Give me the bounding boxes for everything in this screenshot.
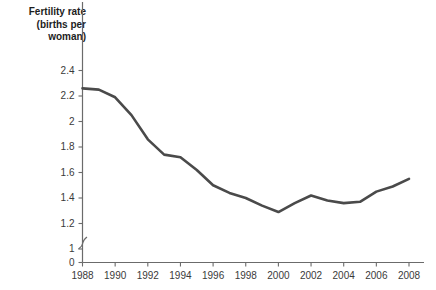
fertility-rate-line: [83, 88, 410, 212]
x-tick-label: 2008: [389, 271, 429, 281]
y-tick-label: 2: [41, 117, 75, 127]
y-tick-label: 1.6: [41, 168, 75, 178]
y-tick-label: 2.2: [41, 91, 75, 101]
y-tick-label: 1: [41, 244, 75, 254]
fertility-rate-chart: Fertility rate (births per woman) 011.21…: [0, 0, 436, 290]
y-tick-label: 1.2: [41, 219, 75, 229]
y-tick-label: 2.4: [41, 66, 75, 76]
y-tick-label: 1.4: [41, 193, 75, 203]
y-tick-label: 1.8: [41, 142, 75, 152]
y-tick-label: 0: [41, 258, 75, 268]
axes: [83, 2, 425, 263]
